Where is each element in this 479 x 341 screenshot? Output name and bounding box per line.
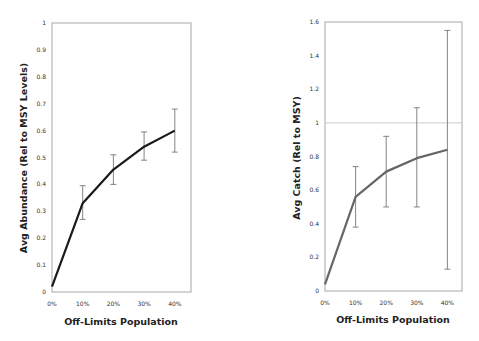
x-axis-label: Off-Limits Population (64, 316, 178, 327)
abundance-chart: 00.10.20.30.40.50.60.70.80.91 0%10%20%30… (18, 19, 191, 327)
x-tick-label: 0% (320, 299, 330, 306)
x-tick-label: 20% (107, 300, 121, 307)
x-axis-ticks: 0%10%20%30%40% (47, 300, 182, 307)
x-tick-label: 40% (168, 300, 182, 307)
y-tick-label: 1 (42, 19, 46, 26)
x-tick-label: 10% (76, 300, 90, 307)
y-axis-label: Avg Catch (Rel to MSY) (291, 96, 302, 220)
y-axis-ticks: 00.20.40.60.811.21.41.6 (309, 18, 319, 294)
x-tick-label: 10% (349, 299, 363, 306)
plot-area-frame (52, 23, 191, 292)
y-tick-label: 1 (315, 119, 319, 126)
y-tick-label: 0.3 (36, 207, 46, 214)
y-tick-label: 0.7 (36, 100, 46, 107)
abundance-line (52, 131, 175, 287)
y-tick-label: 0.9 (36, 46, 46, 53)
error-bars (80, 109, 178, 219)
y-axis-ticks: 00.10.20.30.40.50.60.70.80.91 (36, 19, 46, 295)
y-axis-label: Avg Abundance (Rel to MSY Levels) (18, 63, 29, 253)
error-bars (353, 30, 451, 269)
y-tick-label: 0 (315, 287, 319, 294)
x-tick-label: 30% (137, 300, 151, 307)
catch-chart: 00.20.40.60.811.21.41.6 0%10%20%30%40% A… (291, 18, 462, 325)
y-tick-label: 0.8 (309, 153, 319, 160)
y-tick-label: 0.5 (36, 154, 46, 161)
x-axis-ticks: 0%10%20%30%40% (320, 299, 454, 306)
x-tick-label: 20% (380, 299, 394, 306)
y-tick-label: 0.2 (309, 253, 319, 260)
x-tick-label: 30% (410, 299, 424, 306)
x-axis-label: Off-Limits Population (336, 314, 450, 325)
x-tick-label: 40% (441, 299, 455, 306)
y-tick-label: 0.4 (309, 220, 319, 227)
y-tick-label: 1.6 (309, 18, 319, 25)
y-tick-label: 0 (42, 288, 46, 295)
y-tick-label: 0.8 (36, 73, 46, 80)
y-tick-label: 0.6 (309, 186, 319, 193)
y-tick-label: 0.2 (36, 234, 46, 241)
y-tick-label: 0.4 (36, 180, 46, 187)
y-tick-label: 1.4 (309, 52, 319, 59)
y-tick-label: 1.2 (309, 85, 319, 92)
y-tick-label: 0.6 (36, 127, 46, 134)
plot-area-frame (325, 22, 462, 291)
x-tick-label: 0% (47, 300, 57, 307)
y-tick-label: 0.1 (36, 261, 46, 268)
figure: 00.10.20.30.40.50.60.70.80.91 0%10%20%30… (0, 0, 479, 341)
